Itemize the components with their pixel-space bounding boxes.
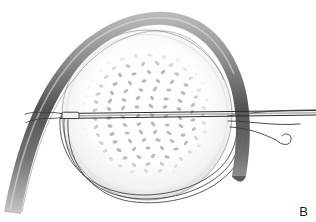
illustration-canvas bbox=[0, 0, 316, 222]
panel-label: B bbox=[299, 205, 308, 218]
surgical-illustration-figure: B bbox=[0, 0, 316, 222]
suture-tail-curl bbox=[276, 134, 291, 145]
curved-band-tip bbox=[232, 176, 246, 182]
